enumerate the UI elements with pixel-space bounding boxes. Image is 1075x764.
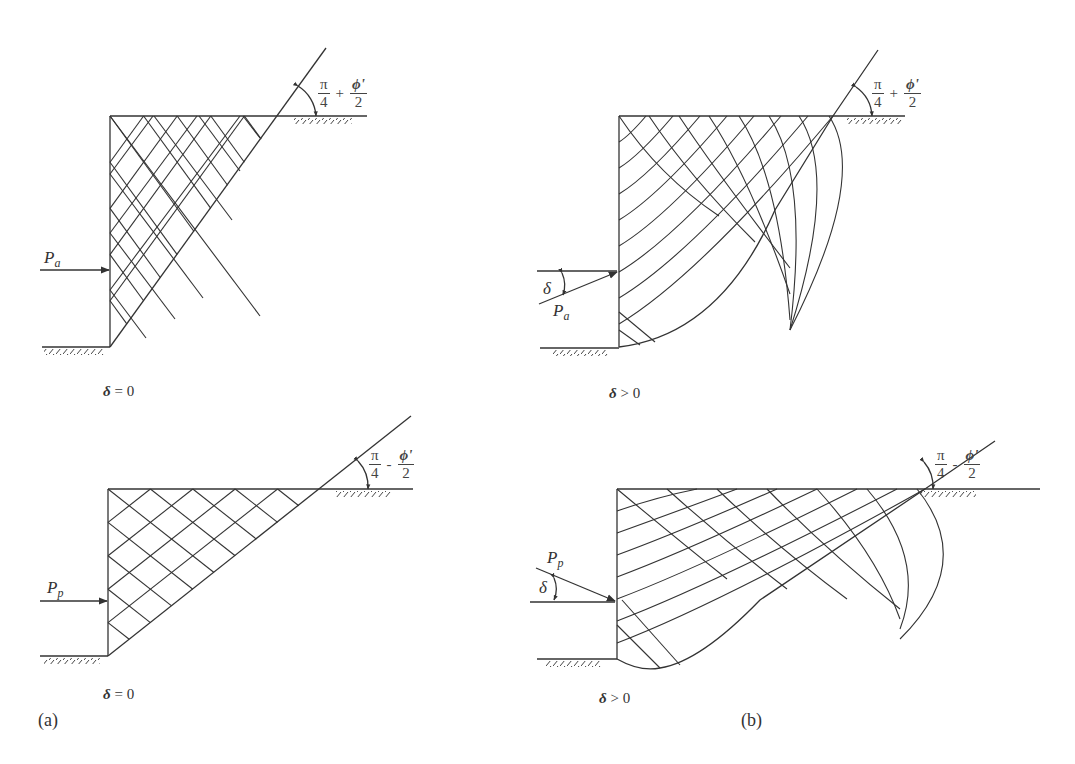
label-pp-right: Pp [547,548,563,571]
active-b-diagram [537,50,905,356]
passive-a-diagram [40,416,413,664]
delta-label-passive-b: δ [539,578,547,598]
label-pa-left: Pa [44,248,60,271]
delta-arc [554,578,556,600]
caption-passive-a: δ = 0 [103,686,134,703]
angle-arc [856,87,872,116]
delta-arc [562,273,565,295]
panel-tag-a: (a) [38,710,58,731]
earth-pressure-slip-line-diagram [0,0,1075,764]
angle-label-passive-b: π4 - ϕ'2 [935,447,980,482]
angle-arc [358,461,368,489]
label-pp-left: Pp [47,578,63,601]
angle-label-active-b: π4 + ϕ'2 [872,76,921,111]
panel-tag-b: (b) [741,710,762,731]
caption-active-a: δ = 0 [103,383,134,400]
failure-plane [108,416,411,656]
failure-plane [110,48,326,347]
angle-arc [298,86,316,116]
angle-label-passive-a: π4 - ϕ'2 [369,447,414,482]
force-arrow-pp [536,568,615,601]
caption-passive-b: δ > 0 [599,690,630,707]
caption-active-b: δ > 0 [609,385,640,402]
label-pa-right: Pa [553,301,569,324]
delta-label-active-b: δ [543,279,551,299]
angle-label-active-a: π4 + ϕ'2 [318,76,367,111]
